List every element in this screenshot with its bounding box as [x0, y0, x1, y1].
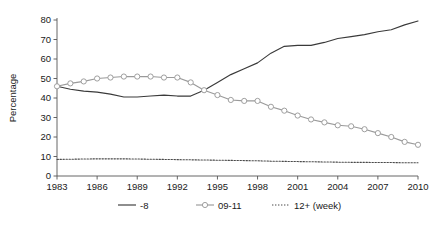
legend-item-0[interactable]: -8 — [118, 200, 148, 211]
x-tick-label: 1989 — [127, 181, 148, 192]
series-marker-1 — [228, 97, 233, 102]
y-axis-title: Percentage — [7, 74, 18, 123]
x-tick-label: 1998 — [247, 181, 268, 192]
series-marker-1 — [95, 76, 100, 81]
series-marker-1 — [415, 142, 420, 147]
series-marker-1 — [188, 80, 193, 85]
series-marker-1 — [108, 75, 113, 80]
series-line-2 — [57, 159, 418, 163]
legend-swatch-marker-1 — [202, 202, 207, 207]
series-marker-1 — [135, 74, 140, 79]
series-marker-1 — [268, 104, 273, 109]
y-tick-label: 30 — [40, 112, 51, 123]
series-marker-1 — [375, 131, 380, 136]
line-chart-svg: 01020304050607080 1983198619891992199519… — [0, 0, 432, 228]
x-tick-label: 2004 — [327, 181, 348, 192]
legend-label-1: 09-11 — [218, 200, 242, 211]
x-tick-label: 1992 — [167, 181, 188, 192]
series-marker-1 — [215, 92, 220, 97]
series-marker-1 — [242, 98, 247, 103]
legend-item-1[interactable]: 09-11 — [196, 200, 242, 211]
legend-item-2[interactable]: 12+ (week) — [272, 200, 341, 211]
x-axis: 1983198619891992199519982001200420072010 — [46, 176, 428, 192]
series-marker-1 — [161, 75, 166, 80]
series-marker-1 — [282, 108, 287, 113]
y-tick-label: 50 — [40, 73, 51, 84]
series-line-0 — [57, 21, 418, 97]
chart-legend: -809-1112+ (week) — [118, 200, 341, 211]
y-axis: 01020304050607080 — [40, 14, 57, 181]
legend-label-0: -8 — [140, 200, 148, 211]
series-marker-1 — [255, 98, 260, 103]
data-series-group — [54, 21, 420, 163]
y-tick-label: 10 — [40, 151, 51, 162]
series-marker-1 — [362, 127, 367, 132]
x-tick-label: 1986 — [87, 181, 108, 192]
x-tick-label: 1983 — [46, 181, 67, 192]
series-marker-1 — [201, 88, 206, 93]
series-marker-1 — [322, 120, 327, 125]
series-marker-1 — [81, 79, 86, 84]
legend-label-2: 12+ (week) — [294, 200, 341, 211]
x-tick-label: 2010 — [407, 181, 428, 192]
y-tick-label: 70 — [40, 34, 51, 45]
series-marker-1 — [402, 139, 407, 144]
series-marker-1 — [349, 124, 354, 129]
series-marker-1 — [148, 74, 153, 79]
series-marker-1 — [389, 134, 394, 139]
chart-figure: 01020304050607080 1983198619891992199519… — [0, 0, 432, 228]
series-line-1 — [57, 77, 418, 145]
series-marker-1 — [54, 84, 59, 89]
y-tick-label: 40 — [40, 92, 51, 103]
y-tick-label: 0 — [46, 170, 51, 181]
y-tick-label: 80 — [40, 14, 51, 25]
series-marker-1 — [68, 81, 73, 86]
series-marker-1 — [175, 75, 180, 80]
x-tick-label: 2007 — [367, 181, 388, 192]
y-tick-label: 20 — [40, 131, 51, 142]
series-marker-1 — [335, 123, 340, 128]
series-marker-1 — [295, 113, 300, 118]
x-tick-label: 2001 — [287, 181, 308, 192]
y-tick-label: 60 — [40, 53, 51, 64]
series-marker-1 — [121, 74, 126, 79]
series-marker-1 — [308, 117, 313, 122]
x-tick-label: 1995 — [207, 181, 228, 192]
